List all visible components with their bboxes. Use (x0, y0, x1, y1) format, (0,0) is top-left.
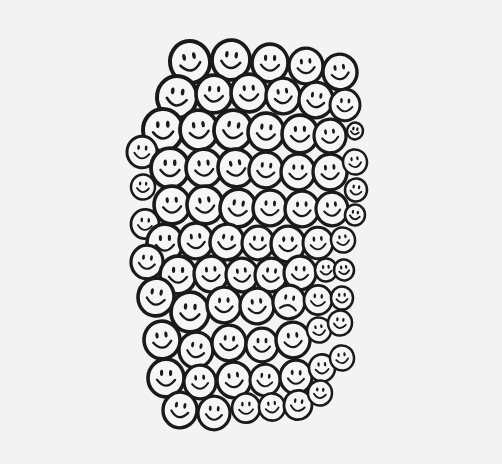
smiley-face-icon (288, 47, 324, 85)
smiley-face-icon (312, 118, 347, 155)
smiley-face-icon (206, 287, 241, 324)
smiley-face-icon (246, 328, 278, 362)
smiley-face-icon (329, 226, 357, 255)
smiley-face-icon (327, 309, 354, 337)
smiley-face-icon (131, 174, 156, 200)
smiley-face-icon (314, 190, 350, 227)
smiley-face-icon (197, 395, 231, 430)
smiley-face-icon (230, 73, 268, 113)
smiley-face-icon (275, 321, 312, 360)
smiley-face-icon (284, 191, 319, 228)
smiley-face-icon (331, 286, 353, 309)
smiley-face-icon (142, 319, 182, 360)
smiley-face-icon (247, 150, 285, 189)
smiley-face-icon (151, 148, 189, 188)
smiley-face-icon (346, 121, 365, 140)
smiley-faces-drawing (0, 0, 502, 464)
smiley-face-icon (344, 177, 369, 203)
smiley-face-icon (195, 74, 232, 113)
smiley-face-icon (248, 363, 282, 398)
smiley-face-icon (281, 154, 316, 190)
smiley-face-icon (252, 189, 288, 226)
smiley-crowd-illustration (0, 0, 502, 464)
smiley-face-icon (247, 112, 286, 152)
smiley-face-icon (257, 392, 286, 422)
smiley-face-icon (231, 393, 260, 423)
smiley-face-icon (307, 380, 333, 407)
smiley-face-icon (302, 226, 335, 260)
smiley-face-icon (329, 88, 361, 121)
smiley-face-icon (303, 284, 333, 315)
smiley-face-icon (211, 324, 248, 363)
smiley-face-icon (333, 258, 356, 282)
